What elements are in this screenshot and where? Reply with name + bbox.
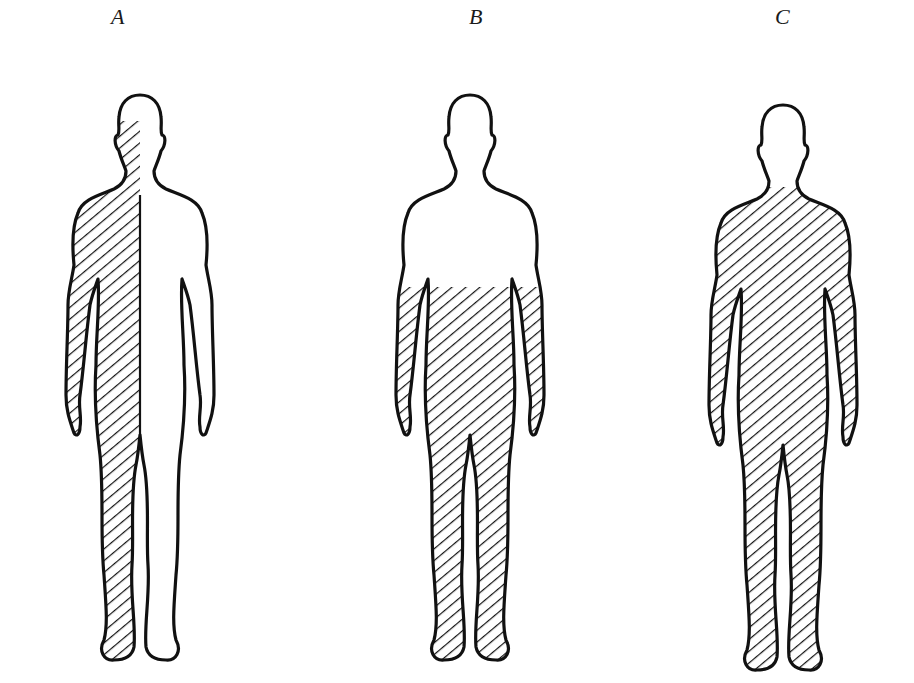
figure-b: [396, 95, 544, 660]
figure-c: [709, 105, 857, 670]
figure-a: [66, 95, 214, 660]
figure-c-hatched-below-neck: [709, 105, 857, 670]
figure-b-hatched-lower-body: [396, 95, 544, 660]
body-diagram: [0, 0, 914, 683]
